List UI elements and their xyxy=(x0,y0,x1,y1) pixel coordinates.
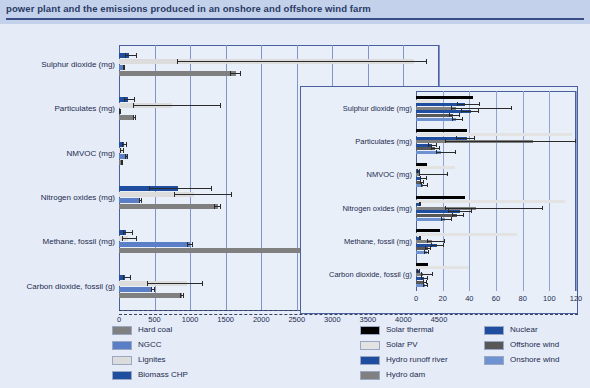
main-error-bar xyxy=(151,287,155,292)
main-error-bar xyxy=(149,186,212,191)
inset-bar xyxy=(416,263,428,266)
inset-error-bar xyxy=(428,144,437,147)
main-bar xyxy=(119,204,218,209)
inset-category-label: Nitrogen oxides (mg) xyxy=(303,204,412,213)
main-category-label: Methane, fossil (mg) xyxy=(0,237,115,246)
chart-legend: Hard coalNGCCLignitesBiomass CHPSolar th… xyxy=(0,320,590,388)
inset-bar xyxy=(416,229,440,232)
inset-error-bar xyxy=(431,244,444,247)
inset-bar xyxy=(416,266,469,269)
inset-error-bar xyxy=(424,251,429,254)
gridline xyxy=(297,45,298,311)
inset-category-label: Carbon dioxide, fossil (g) xyxy=(303,270,412,279)
inset-category-label: Methane, fossil (mg) xyxy=(303,237,412,246)
main-bar xyxy=(119,198,140,203)
main-category-label: Particulates (mg) xyxy=(0,104,115,113)
legend-label: Biomass CHP xyxy=(138,370,188,379)
inset-error-bar xyxy=(452,214,464,217)
main-category-label: NMVOC (mg) xyxy=(0,149,115,158)
inset-bar xyxy=(416,163,427,166)
main-error-bar xyxy=(122,142,127,147)
main-bar xyxy=(119,248,302,253)
inset-error-bar xyxy=(417,270,420,273)
inset-x-tick-label: 20 xyxy=(431,294,455,303)
inset-category-label: Sulphur dioxide (mg) xyxy=(303,104,412,113)
main-error-bar xyxy=(147,281,202,286)
legend-label: Solar thermal xyxy=(386,325,434,334)
main-error-bar xyxy=(123,230,133,235)
main-error-bar xyxy=(230,71,241,76)
inset-bar xyxy=(416,96,473,99)
inset-error-bar xyxy=(457,103,480,106)
inset-bar xyxy=(416,129,467,132)
main-category-label: Nitrogen oxides (mg) xyxy=(0,193,115,202)
inset-bar xyxy=(416,196,465,199)
legend-label: Lignites xyxy=(138,355,166,364)
inset-bar xyxy=(416,100,440,103)
inset-gridline xyxy=(443,91,444,291)
inset-error-bar xyxy=(451,107,512,110)
main-category-label: Sulphur dioxide (mg) xyxy=(0,60,115,69)
inset-error-bar xyxy=(449,114,460,117)
main-error-bar xyxy=(174,192,232,197)
legend-swatch-icon xyxy=(360,326,380,335)
main-error-bar xyxy=(120,148,124,153)
inset-error-bar xyxy=(456,137,475,140)
legend-label: Onshore wind xyxy=(510,355,559,364)
inset-error-bar xyxy=(441,218,452,221)
main-error-bar xyxy=(180,293,184,298)
legend-label: Offshore wind xyxy=(510,340,559,349)
legend-label: Hydro dam xyxy=(386,370,425,379)
inset-x-tick-label: 100 xyxy=(537,294,561,303)
inset-gridline xyxy=(496,91,497,291)
legend-swatch-icon xyxy=(112,356,132,365)
main-bar xyxy=(119,293,182,298)
legend-label: Solar PV xyxy=(386,340,418,349)
main-error-bar xyxy=(123,275,132,280)
legend-label: Hydro runoff river xyxy=(386,355,448,364)
inset-x-tick-label: 40 xyxy=(457,294,481,303)
legend-label: NGCC xyxy=(138,340,162,349)
inset-category-label: NMVOC (mg) xyxy=(303,170,412,179)
inset-error-bar xyxy=(445,140,576,143)
header-divider xyxy=(6,18,584,20)
main-bar xyxy=(119,287,152,292)
inset-error-bar xyxy=(461,110,478,113)
inset-error-bar xyxy=(419,237,422,240)
callout-dashed-line xyxy=(119,314,578,315)
legend-swatch-icon xyxy=(360,356,380,365)
inset-gridline xyxy=(469,91,470,291)
legend-swatch-icon xyxy=(484,341,504,350)
main-error-bar xyxy=(133,103,221,108)
main-error-bar xyxy=(121,160,123,165)
legend-swatch-icon xyxy=(112,371,132,380)
main-bar xyxy=(119,242,190,247)
legend-swatch-icon xyxy=(484,326,504,335)
legend-swatch-icon xyxy=(112,341,132,350)
legend-swatch-icon xyxy=(484,356,504,365)
inset-error-bar xyxy=(423,284,428,287)
main-error-bar xyxy=(119,109,121,114)
main-error-bar xyxy=(125,154,128,159)
inset-gridline xyxy=(576,91,577,291)
figure-canvas: Sulphur dioxide (mg)Particulates (mg)NMV… xyxy=(0,24,590,388)
legend-swatch-icon xyxy=(360,371,380,380)
inset-gridline xyxy=(523,91,524,291)
main-error-bar xyxy=(187,242,193,247)
inset-error-bar xyxy=(419,173,448,176)
legend-swatch-icon xyxy=(112,326,132,335)
inset-error-bar xyxy=(445,207,542,210)
main-error-bar xyxy=(125,53,137,58)
main-error-bar xyxy=(177,59,427,64)
main-error-bar xyxy=(122,236,138,241)
inset-x-tick-label: 120 xyxy=(564,294,588,303)
gridline xyxy=(226,45,227,311)
inset-bar xyxy=(416,118,456,121)
inset-gridline xyxy=(549,91,550,291)
inset-category-label: Particulates (mg) xyxy=(303,137,412,146)
inset-bar xyxy=(416,233,517,236)
gridline xyxy=(155,45,156,311)
main-error-bar xyxy=(124,97,135,102)
main-category-label: Carbon dioxide, fossil (g) xyxy=(0,282,115,291)
inset-bar xyxy=(416,200,565,203)
